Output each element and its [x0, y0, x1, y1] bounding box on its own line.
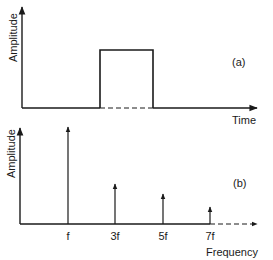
panel-a: Amplitude Time (a)	[7, 7, 257, 126]
panel-b: f 3f 5f 7f Amplitude Frequency (b)	[5, 127, 258, 258]
tick-label-5f: 5f	[158, 230, 168, 242]
panel-a-x-label: Time	[232, 114, 256, 126]
tick-label-3f: 3f	[110, 230, 120, 242]
panel-b-tag: (b)	[233, 177, 246, 189]
tick-label-f: f	[66, 230, 70, 242]
panel-a-y-label: Amplitude	[7, 13, 19, 62]
tick-label-7f: 7f	[205, 230, 215, 242]
diagram-canvas: Amplitude Time (a) f 3f 5f 7f Amplitude …	[0, 0, 273, 260]
panel-b-x-label: Frequency	[206, 246, 258, 258]
rectangular-pulse	[100, 50, 153, 108]
panel-a-tag: (a)	[232, 56, 245, 68]
panel-b-y-label: Amplitude	[5, 129, 17, 178]
